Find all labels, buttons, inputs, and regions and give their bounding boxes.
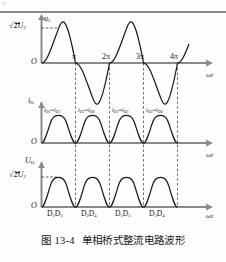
plot-uo-x-axis-label: ωt [206,213,213,220]
sqrt-icon: √2 [9,22,17,30]
figure-number: 图 13-4 [41,235,75,246]
plot-u2-tick-3pi: 3π [136,53,144,61]
plot-u2-amplitude-label: √2U2 [9,22,26,31]
plot-u2-tick-2pi: 2π [102,53,110,61]
plot-u2-y-axis-label: u2 [44,15,50,24]
figure-caption-text: 单相桥式整流电路波形 [82,235,185,246]
plot-u2-x-axis-label: ωt [206,72,213,79]
plot-uo-x-arrow [206,204,213,211]
plot-io-segment-label-1: iD1=iD3 [44,107,60,115]
plot-uo-y-axis-label: UO [25,157,34,166]
plot-u2-tick-pi: π [72,53,76,61]
plot-uo-amplitude-label: √2U2 [9,171,26,180]
plot-u2-tick-4pi: 4π [170,53,178,61]
figure-caption: 图 13-4单相桥式整流电路波形 [0,232,226,247]
dashed-guides [76,63,178,207]
plot-io-y-axis-label: iO [28,97,34,106]
plot-io-x-arrow [206,140,213,147]
plot-u2 [38,14,213,104]
waveform-figure: u2 √2U2 O π 2π 3π 4π ωt iO O iD1=iD3 iD2… [0,14,226,230]
plot-io-segment-label-4: iD2=iD4 [146,107,162,115]
plot-io-origin-label: O [31,138,37,146]
plot-uo-y-arrow [38,162,45,168]
figure-page: II [0,0,226,262]
plot-uo-diode-label-2: D2D4 [81,210,97,219]
plot-u2-x-arrow [206,60,213,67]
page-corner-mark: II [2,1,5,7]
plot-uo-origin-label: O [31,202,37,210]
plot-uo-diode-label-4: D2D4 [149,210,165,219]
page-top-rule [0,11,226,13]
plot-uo-diode-label-3: D1D3 [115,210,131,219]
plot-io-segment-label-2: iD2=iD4 [78,107,94,115]
plot-uo-diode-label-1: D1D3 [47,210,63,219]
plot-u2-origin-label: O [31,58,37,66]
plot-io-segment-label-3: iD1=iD3 [112,107,128,115]
plot-io-curve [42,115,178,143]
plot-io-x-axis-label: ωt [206,152,213,159]
waveform-svg [0,14,226,230]
plot-uo [38,162,213,210]
sqrt-icon-2: √2 [9,171,17,179]
